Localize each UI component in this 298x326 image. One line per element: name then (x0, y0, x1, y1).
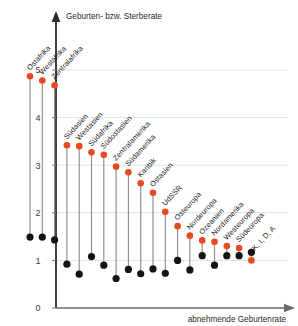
birth-rate-dot (224, 243, 231, 250)
y-tick-label: 4 (35, 113, 40, 123)
x-axis-arrow-icon (284, 304, 295, 312)
x-axis-title: abnehmende Geburtenrate (188, 315, 287, 324)
chart-container: 012345 OstafrikaWestafrikaZentralafrikaS… (0, 0, 298, 326)
birth-rate-dot (174, 223, 181, 230)
death-rate-dot (211, 262, 218, 269)
scatter-chart-svg: 012345 OstafrikaWestafrikaZentralafrikaS… (0, 0, 298, 326)
death-rate-dot (223, 252, 230, 259)
death-rate-dot (39, 233, 46, 240)
birth-rate-dot (125, 169, 132, 176)
birth-rate-dot (211, 239, 218, 246)
death-rate-dot (236, 252, 243, 259)
death-rate-dot (137, 270, 144, 277)
birth-rate-dot (88, 149, 95, 156)
birth-rate-dot (64, 142, 71, 149)
birth-rate-dot (76, 143, 83, 150)
birth-rate-dot (39, 77, 46, 84)
y-tick-label: 2 (35, 208, 40, 218)
chart-plot-area: 012345 OstafrikaWestafrikaZentralafrikaS… (0, 0, 298, 326)
y-tick-label: 0 (35, 303, 40, 313)
death-rate-dot (63, 261, 70, 268)
birth-rate-dot (150, 190, 157, 197)
chart-title: Geburten- bzw. Sterberate (66, 12, 162, 21)
death-rate-dot (248, 249, 255, 256)
death-rate-dot (113, 275, 120, 282)
birth-rate-dot (187, 232, 194, 239)
death-rate-dot (51, 236, 58, 243)
birth-rate-dot (236, 245, 243, 252)
birth-rate-dot (162, 209, 169, 216)
birth-rate-dot (51, 82, 58, 89)
y-tick-labels-group: 012345 (35, 65, 56, 313)
y-tick-label: 3 (35, 161, 40, 171)
birth-rate-dot (248, 257, 255, 264)
birth-rate-dot (101, 151, 108, 158)
death-rate-dot (26, 233, 33, 240)
death-rate-dot (186, 266, 193, 273)
death-rate-dot (149, 265, 156, 272)
category-labels-group: OstafrikaWestafrikaZentralafrikaSüdasien… (25, 43, 277, 256)
y-tick-label: 1 (35, 256, 40, 266)
y-axis-arrow-icon (52, 11, 61, 22)
birth-rate-dot (199, 237, 206, 244)
death-rate-dot (162, 270, 169, 277)
death-rate-dot (76, 271, 83, 278)
death-rate-dot (199, 252, 206, 259)
death-rate-dot (88, 253, 95, 260)
birth-rate-dot (27, 73, 34, 80)
death-rate-dot (125, 266, 132, 273)
birth-rate-dot (137, 180, 144, 187)
birth-rate-dot (113, 163, 120, 170)
death-rate-dot (100, 262, 107, 269)
death-rate-dot (174, 257, 181, 264)
category-label: UdSSR (160, 183, 184, 208)
